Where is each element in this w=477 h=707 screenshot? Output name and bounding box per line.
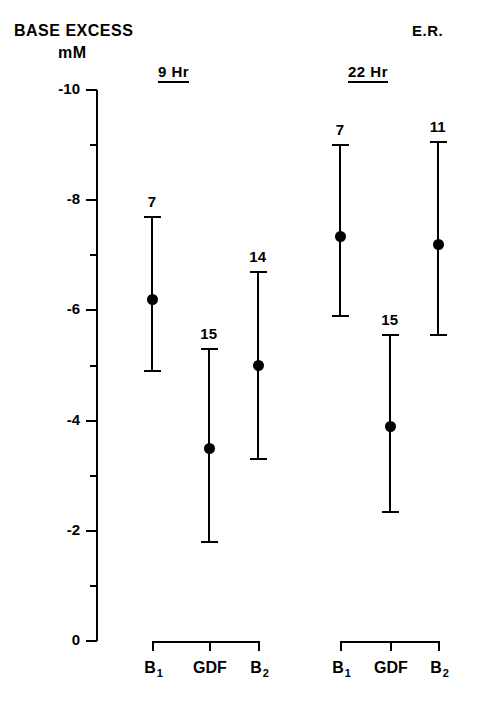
y-axis-tick-label: -4: [36, 411, 80, 428]
y-axis-tick-label: -2: [36, 521, 80, 538]
x-axis-label-b1: B1: [332, 659, 350, 677]
error-bar-9hr-b1: 7: [132, 0, 172, 707]
figure-base-excess: BASE EXCESS mM E.R. 9 Hr 22 Hr -10-8-6-4…: [0, 0, 477, 707]
mean-data-point: [204, 443, 215, 454]
y-axis-major-tick: [86, 89, 97, 91]
error-bar-upper-cap: [332, 144, 349, 146]
x-axis-group-bracket: [340, 641, 438, 643]
error-bar-22hr-b2: 11: [418, 0, 458, 707]
error-bar-upper-cap: [144, 216, 161, 218]
y-axis-major-tick: [86, 640, 97, 642]
y-axis-major-tick: [86, 199, 97, 201]
x-axis-tick: [209, 641, 211, 651]
x-axis-tick: [390, 641, 392, 651]
error-bar-upper-cap: [382, 334, 399, 336]
x-axis-label-gdf: GDF: [374, 659, 408, 677]
x-axis-bracket-end-tick: [438, 641, 440, 651]
error-bar-lower-cap: [250, 458, 267, 460]
y-axis-tick-label: -10: [36, 80, 80, 97]
x-axis-label-b2: B2: [430, 659, 448, 677]
error-bar-upper-cap: [201, 348, 218, 350]
y-axis-minor-tick: [90, 365, 97, 367]
x-axis-label-b1: B1: [144, 659, 162, 677]
error-bar-9hr-gdf: 15: [189, 0, 229, 707]
sample-size-label: 15: [381, 311, 398, 328]
mean-data-point: [385, 421, 396, 432]
error-bar-lower-cap: [144, 370, 161, 372]
sample-size-label: 7: [336, 121, 344, 138]
error-bar-lower-cap: [430, 334, 447, 336]
plot-area: -10-8-6-4-20 7151471511 B1GDFB2B1GDFB2: [0, 0, 477, 707]
y-axis-major-tick: [86, 309, 97, 311]
mean-data-point: [253, 360, 264, 371]
sample-size-label: 14: [249, 248, 266, 265]
y-axis-minor-tick: [90, 144, 97, 146]
x-axis-bracket-end-tick: [258, 641, 260, 651]
x-axis-bracket-end-tick: [152, 641, 154, 651]
sample-size-label: 15: [200, 325, 217, 342]
x-axis-group-bracket: [152, 641, 258, 643]
error-bar-22hr-b1: 7: [320, 0, 360, 707]
error-bar-9hr-b2: 14: [238, 0, 278, 707]
mean-data-point: [335, 231, 346, 242]
mean-data-point: [433, 239, 444, 250]
y-axis-tick-label: 0: [36, 631, 80, 648]
error-bar-upper-cap: [250, 271, 267, 273]
mean-data-point: [147, 294, 158, 305]
y-axis-minor-tick: [90, 475, 97, 477]
x-axis-label-gdf: GDF: [193, 659, 227, 677]
y-axis-minor-tick: [90, 254, 97, 256]
error-bar-lower-cap: [382, 511, 399, 513]
y-axis-tick-label: -8: [36, 190, 80, 207]
sample-size-label: 11: [430, 118, 446, 135]
y-axis-minor-tick: [90, 585, 97, 587]
y-axis-major-tick: [86, 530, 97, 532]
error-bar-22hr-gdf: 15: [370, 0, 410, 707]
y-axis-tick-label: -6: [36, 300, 80, 317]
error-bar-lower-cap: [332, 315, 349, 317]
x-axis-label-b2: B2: [250, 659, 268, 677]
y-axis-major-tick: [86, 420, 97, 422]
error-bar-upper-cap: [430, 141, 447, 143]
x-axis-bracket-end-tick: [340, 641, 342, 651]
error-bar-lower-cap: [201, 541, 218, 543]
sample-size-label: 7: [148, 193, 156, 210]
